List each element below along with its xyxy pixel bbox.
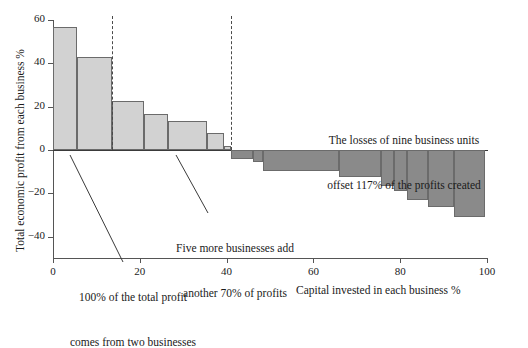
y-tick-label-0: 60	[11, 12, 45, 24]
y-tick-3	[48, 150, 53, 151]
annotation-two-businesses-line1: 100% of the total profit	[40, 290, 226, 305]
bar-5[interactable]	[168, 121, 207, 150]
y-tick-label-5: −40	[11, 229, 45, 241]
x-tick-4	[400, 258, 401, 263]
reference-line-1	[231, 16, 232, 150]
y-tick-label-3: 0	[11, 142, 45, 154]
annotation-losses-line1: The losses of nine business units	[296, 133, 512, 148]
bar-6[interactable]	[207, 133, 224, 150]
annotation-five-more-line1: Five more businesses add	[140, 241, 330, 256]
x-tick-label-4: 80	[380, 265, 420, 277]
bar-9[interactable]	[253, 150, 264, 162]
annotation-two-businesses-line2: comes from two businesses	[40, 335, 226, 348]
y-tick-0	[48, 20, 53, 21]
annotation-two-businesses-note: 100% of the total profit comes from two …	[40, 261, 226, 348]
y-tick-label-2: 20	[11, 99, 45, 111]
annotation-losses-line2: offset 117% of the profits created	[296, 178, 512, 193]
y-tick-4	[48, 193, 53, 194]
x-tick-5	[487, 258, 488, 263]
y-tick-label-1: 40	[11, 55, 45, 67]
bar-4[interactable]	[144, 114, 168, 150]
annotation-losses-note: The losses of nine business units offset…	[296, 104, 512, 222]
reference-line-0	[112, 16, 113, 150]
y-tick-label-4: −20	[11, 185, 45, 197]
bar-1[interactable]	[53, 27, 77, 151]
bar-3[interactable]	[112, 101, 145, 150]
bar-7[interactable]	[224, 146, 231, 150]
bar-2[interactable]	[77, 57, 112, 150]
x-tick-label-5: 100	[467, 265, 507, 277]
y-tick-5	[48, 237, 53, 238]
bar-8[interactable]	[231, 150, 253, 159]
profit-pool-chart: Total economic profit from each business…	[0, 0, 528, 348]
